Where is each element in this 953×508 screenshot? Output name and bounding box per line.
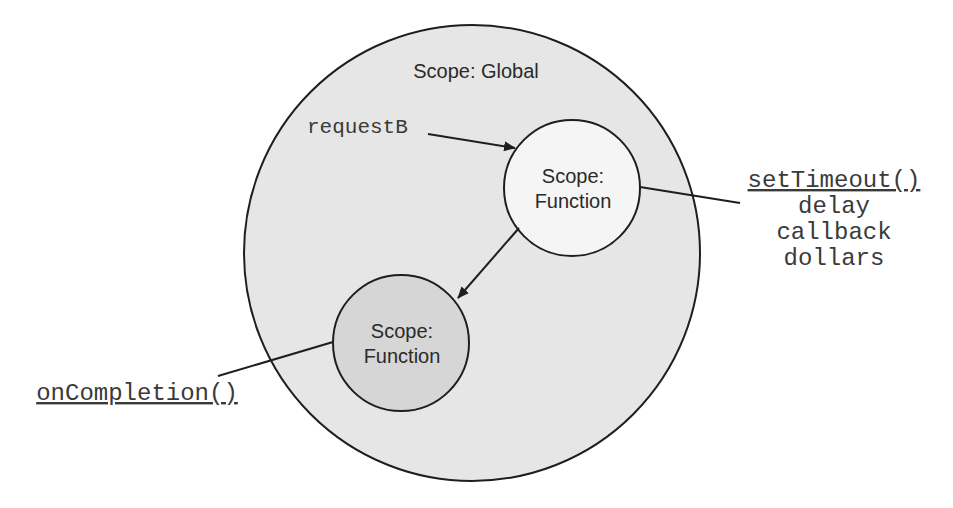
scope-diagram: Scope: Global Scope: Function Scope: Fun… — [0, 0, 953, 508]
global-scope-label: Scope: Global — [413, 60, 539, 82]
function-scope-a-label-line2: Function — [535, 190, 612, 212]
variable-label-requestB: requestB — [307, 116, 408, 139]
function-scope-a-circle — [504, 120, 640, 256]
function-scope-a-label-line1: Scope: — [542, 165, 604, 187]
function-scope-b-circle — [333, 275, 469, 411]
function-scope-b-label-line2: Function — [364, 345, 441, 367]
settimeout-param-delay: delay — [798, 193, 870, 220]
oncompletion-label: onCompletion() — [36, 380, 238, 407]
function-scope-b-label-line1: Scope: — [371, 320, 433, 342]
global-scope-circle — [244, 25, 700, 481]
settimeout-param-callback: callback — [776, 219, 891, 246]
settimeout-label: setTimeout() — [748, 167, 921, 194]
settimeout-param-dollars: dollars — [784, 245, 885, 272]
